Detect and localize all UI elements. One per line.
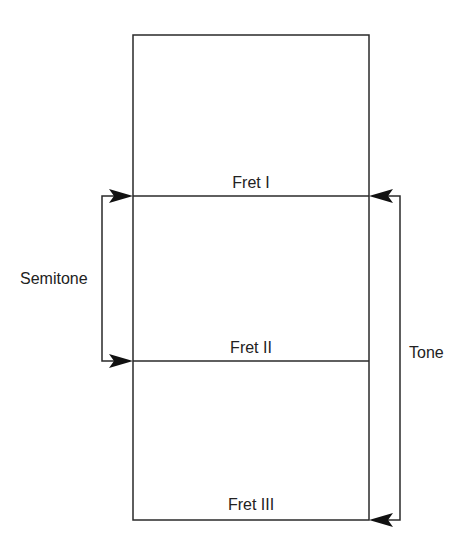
semitone-bracket [102,189,133,368]
tone-label: Tone [409,344,444,361]
tone-bracket [369,189,400,527]
semitone-label: Semitone [20,270,88,287]
fret-label-3: Fret III [228,496,274,513]
fret-label-1: Fret I [232,174,269,191]
fingerboard-outline [133,35,369,520]
fret-interval-diagram: Fret I Fret II Fret III Semitone Tone [0,0,466,552]
fret-label-2: Fret II [230,339,272,356]
